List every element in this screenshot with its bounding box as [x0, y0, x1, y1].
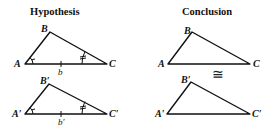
label-hyp-b: B	[41, 24, 48, 34]
angle-mark-a-prime	[30, 108, 33, 114]
label-con-c-prime: C′	[252, 109, 261, 119]
label-con-b-prime: B′	[181, 75, 190, 85]
label-hyp-c: C	[109, 59, 116, 69]
hypothesis-triangle-a-prime	[25, 84, 107, 114]
label-con-c: C	[253, 59, 260, 69]
label-hyp-side-b: b	[58, 67, 63, 77]
diagram-canvas	[0, 0, 274, 132]
congruent-symbol: ≅	[212, 68, 224, 82]
label-con-a: A	[158, 59, 165, 69]
label-hyp-a: A	[14, 59, 21, 69]
angle-mark-c-prime-tick2	[80, 108, 86, 109]
angle-mark-a	[30, 58, 33, 64]
label-con-b: B	[184, 26, 191, 36]
label-hyp-b-prime: B′	[40, 76, 49, 86]
conclusion-triangle-abc	[168, 32, 250, 64]
label-hyp-c-prime: C′	[109, 109, 118, 119]
conclusion-triangle-a-prime	[167, 82, 250, 114]
hypothesis-triangle-abc	[25, 32, 107, 64]
label-hyp-side-b-prime: b′	[58, 117, 64, 127]
angle-mark-c-tick1	[80, 56, 86, 57]
label-con-a-prime: A′	[155, 109, 164, 119]
label-hyp-a-prime: A′	[12, 109, 21, 119]
angle-mark-c-tick2	[80, 58, 86, 59]
angle-mark-c-prime-tick1	[80, 106, 86, 107]
